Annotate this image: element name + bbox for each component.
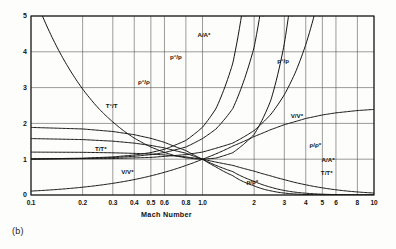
x-tick-label: 3 <box>283 199 287 206</box>
figure-caption: (b) <box>12 226 24 236</box>
x-tick-label: 0.8 <box>182 199 191 206</box>
label-area-ratio-left: A/A* <box>197 31 211 38</box>
isentropic-flow-chart: 0.10.20.30.40.50.60.81.023456810 012345 … <box>0 0 396 249</box>
x-axis-title: Mach Number <box>141 210 192 219</box>
label-stag-pressure-right: p°/p <box>277 57 289 64</box>
x-tick-label: 0.3 <box>108 199 117 206</box>
x-tick-label: 0.5 <box>146 199 155 206</box>
label-stag-density-left: ρ°/ρ <box>138 78 150 85</box>
x-tick-label: 0.6 <box>160 199 169 206</box>
label-stag-temperature-left: T°/T <box>106 102 118 109</box>
label-density-ratio-right: ρ/ρ* <box>309 141 321 148</box>
figure-root: 0.10.20.30.40.50.60.81.023456810 012345 … <box>0 0 396 249</box>
y-tick-label: 5 <box>23 12 27 19</box>
label-temperature-ratio-left: T/T* <box>95 145 107 152</box>
y-tick-label: 3 <box>23 84 27 91</box>
y-tick-label: 1 <box>23 156 27 163</box>
label-velocity-ratio-right: V/V* <box>291 112 304 119</box>
x-axis-title-text: Mach Number <box>141 210 192 219</box>
x-tick-label: 2 <box>252 199 256 206</box>
x-tick-label: 10 <box>370 199 378 206</box>
label-area-ratio-right: A/A* <box>322 156 336 163</box>
x-tick-label: 6 <box>334 199 338 206</box>
x-tick-label: 1.0 <box>198 199 207 206</box>
label-velocity-ratio-left: V/V* <box>121 168 134 175</box>
label-temperature-ratio-right: T/T* <box>321 169 333 176</box>
y-tick-label: 2 <box>23 120 27 127</box>
label-stag-pressure-left: p°/p <box>170 53 182 60</box>
y-tick-label: 0 <box>23 191 27 198</box>
x-tick-label: 0.2 <box>78 199 87 206</box>
y-tick-label: 4 <box>23 48 27 55</box>
grid-lines <box>31 16 374 195</box>
x-tick-label: 4 <box>304 199 308 206</box>
x-tick-label: 0.1 <box>27 199 36 206</box>
label-pressure-ratio-bottom: p/p* <box>246 178 258 185</box>
x-tick-label: 5 <box>321 199 325 206</box>
x-tick-label: 0.4 <box>130 199 139 206</box>
x-tick-label: 8 <box>356 199 360 206</box>
